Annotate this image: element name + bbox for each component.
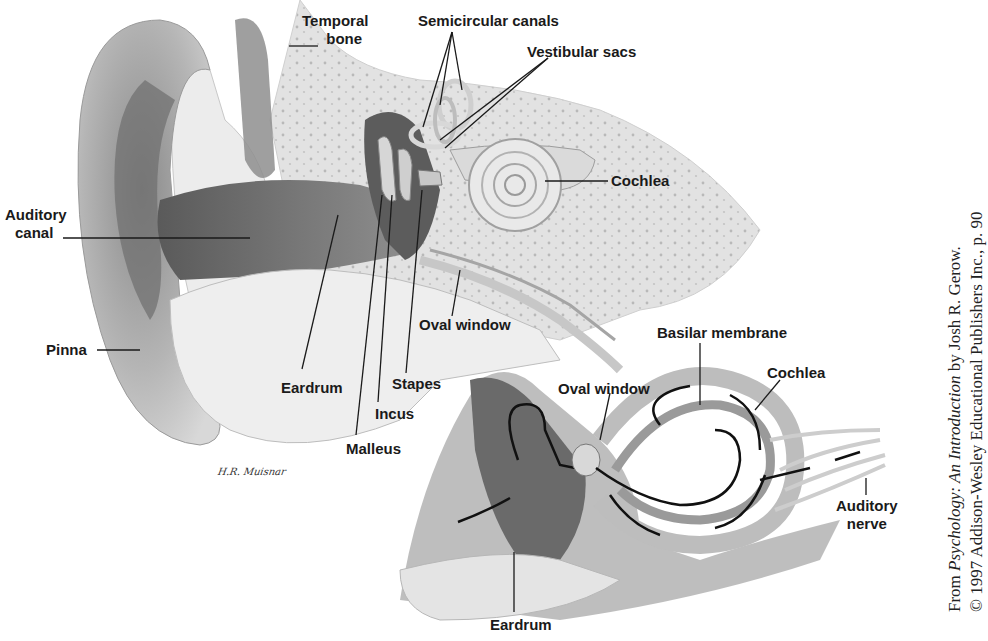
label-basilar-membrane: Basilar membrane xyxy=(657,324,787,342)
source-credit: From Psychology: An Introduction by Josh… xyxy=(944,211,988,612)
label-auditory-canal-line2: canal xyxy=(5,224,67,242)
illustrator-signature: H.R. Muisnar xyxy=(217,466,287,477)
label-auditory-canal: Auditory canal xyxy=(5,206,67,242)
label-cochlea-upper: Cochlea xyxy=(611,172,669,190)
label-oval-window-upper: Oval window xyxy=(419,316,511,334)
label-malleus: Malleus xyxy=(346,440,401,458)
basilar-membrane-shape xyxy=(615,405,770,520)
credit-author: by Josh R. Gerow. xyxy=(945,246,964,375)
stapes-shape xyxy=(418,170,442,186)
label-incus: Incus xyxy=(375,405,414,423)
credit-book-title: Psychology: An Introduction xyxy=(945,375,964,570)
credit-line-2: © 1997 Addison-Wesley Educational Publis… xyxy=(966,211,988,612)
label-auditory-canal-line1: Auditory xyxy=(5,206,67,224)
label-temporal-bone: Temporal bone xyxy=(302,12,368,48)
label-temporal-bone-line1: Temporal xyxy=(302,12,368,30)
inset-oval-window xyxy=(572,444,600,476)
label-auditory-nerve: Auditory nerve xyxy=(836,497,898,533)
label-eardrum-lower: Eardrum xyxy=(490,616,552,634)
credit-prefix: From xyxy=(945,571,964,612)
label-temporal-bone-line2: bone xyxy=(302,30,368,48)
label-eardrum-upper: Eardrum xyxy=(281,379,343,397)
label-auditory-nerve-line1: Auditory xyxy=(836,497,898,515)
label-cochlea-lower: Cochlea xyxy=(767,364,825,382)
label-vestibular-sacs: Vestibular sacs xyxy=(527,43,636,61)
label-stapes: Stapes xyxy=(392,375,441,393)
label-oval-window-lower: Oval window xyxy=(558,380,650,398)
label-pinna: Pinna xyxy=(46,341,87,359)
credit-line-1: From Psychology: An Introduction by Josh… xyxy=(944,211,966,612)
label-auditory-nerve-line2: nerve xyxy=(836,515,898,533)
label-semicircular-canals: Semicircular canals xyxy=(418,12,559,30)
flow-arrow-right xyxy=(730,395,760,450)
